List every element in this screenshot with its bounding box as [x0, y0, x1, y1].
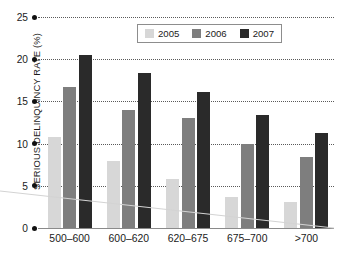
bar-group: [166, 17, 210, 228]
y-axis-tick-label: 25: [17, 12, 28, 23]
bar[interactable]: [284, 202, 297, 228]
bar[interactable]: [256, 115, 269, 228]
bars-layer: [38, 17, 334, 228]
legend-swatch-2005-icon: [145, 29, 154, 38]
legend-item[interactable]: 2005: [145, 28, 179, 39]
y-axis-tick-dot: [32, 226, 37, 231]
y-axis-tick-dot: [32, 15, 37, 20]
bar[interactable]: [48, 137, 61, 228]
x-axis-label: 600–620: [109, 233, 149, 244]
y-axis-tick-label: 20: [17, 54, 28, 65]
bar-group: [225, 17, 269, 228]
chart-container: SERIOUS DELINQUINCY RATE (%) 0510152025 …: [0, 0, 342, 257]
y-axis-tick-label: 5: [22, 180, 28, 191]
bar[interactable]: [122, 110, 135, 228]
bar-group: [284, 17, 328, 228]
bar[interactable]: [300, 157, 313, 228]
bar-group: [48, 17, 92, 228]
clipped-footer-text: [0, 250, 342, 257]
legend: 2005 2006 2007: [137, 24, 282, 43]
legend-label: 2007: [253, 28, 274, 39]
bar[interactable]: [79, 55, 92, 228]
bar[interactable]: [138, 73, 151, 228]
bar-group: [107, 17, 151, 228]
y-axis-tick-label: 15: [17, 96, 28, 107]
y-axis-tick-dot: [32, 183, 37, 188]
x-axis-label: 675–700: [227, 233, 267, 244]
bar[interactable]: [241, 144, 254, 228]
legend-swatch-2007-icon: [240, 29, 249, 38]
x-axis-label: 620–675: [168, 233, 208, 244]
y-axis-tick-label: 10: [17, 138, 28, 149]
legend-label: 2005: [158, 28, 179, 39]
bar[interactable]: [225, 197, 238, 228]
y-axis-tick-label: 0: [22, 223, 28, 234]
bar[interactable]: [182, 118, 195, 228]
y-axis-tick-dot: [32, 99, 37, 104]
bar[interactable]: [107, 161, 120, 228]
legend-item[interactable]: 2007: [240, 28, 274, 39]
x-axis-label: >700: [295, 233, 318, 244]
y-axis-tick-dot: [32, 141, 37, 146]
plot-area: 0510152025: [38, 17, 334, 228]
legend-swatch-2006-icon: [192, 29, 201, 38]
gridline: [38, 228, 334, 229]
bar[interactable]: [166, 179, 179, 228]
y-axis-tick-dot: [32, 57, 37, 62]
legend-label: 2006: [205, 28, 226, 39]
bar[interactable]: [197, 92, 210, 228]
legend-item[interactable]: 2006: [192, 28, 226, 39]
bar[interactable]: [315, 133, 328, 228]
x-axis-label: 500–600: [49, 233, 89, 244]
bar[interactable]: [63, 87, 76, 228]
